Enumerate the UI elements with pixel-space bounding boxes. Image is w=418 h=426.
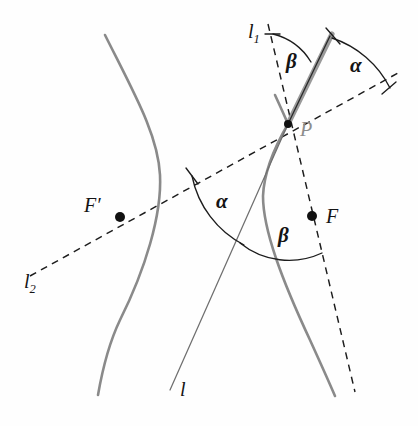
point-P-dot: [284, 120, 292, 128]
dashed-line-l2: [30, 73, 398, 276]
label-beta-top: β: [285, 49, 297, 73]
arc-alpha-top-tick-end: [382, 82, 396, 94]
point-F-prime-dot: [115, 212, 125, 222]
geometry-diagram: l1 l2 l P F F′ α α β β: [0, 0, 418, 426]
label-l1: l1: [248, 20, 260, 46]
arc-alpha-mid-tick-start: [186, 168, 198, 184]
hyperbola-left-branch: [98, 35, 160, 395]
hyperbola-reflection-figure: l1 l2 l P F F′ α α β β: [0, 0, 418, 426]
label-alpha-top: α: [350, 53, 362, 77]
label-F-prime: F′: [83, 194, 101, 216]
label-alpha-mid: α: [216, 189, 228, 213]
hyperbola-right-branch: [263, 95, 335, 396]
label-beta-low: β: [277, 223, 289, 247]
label-l: l: [180, 378, 186, 400]
line-l: [170, 124, 288, 390]
label-l1-subscript: 1: [254, 32, 260, 46]
label-P: P: [299, 118, 312, 140]
label-F: F: [325, 205, 339, 227]
label-l2-subscript: 2: [30, 282, 36, 296]
point-F-dot: [307, 211, 317, 221]
